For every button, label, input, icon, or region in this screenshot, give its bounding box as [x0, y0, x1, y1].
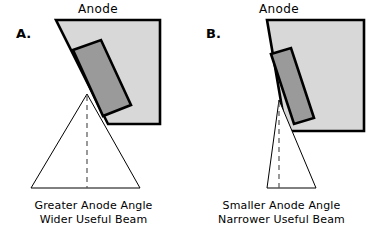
panel-b-diagram	[188, 0, 375, 196]
caption-line-2: Wider Useful Beam	[0, 213, 187, 227]
panel-b-caption: Smaller Anode Angle Narrower Useful Beam	[188, 199, 375, 227]
panel-b: Anode B. Smaller Anode Angle Narrower Us…	[188, 0, 375, 242]
anode-angle-figure: Anode A. Greater Anode Angle Wider Usefu…	[0, 0, 375, 242]
panel-a-diagram	[0, 0, 187, 196]
caption-line-1: Smaller Anode Angle	[188, 199, 375, 213]
caption-line-2: Narrower Useful Beam	[188, 213, 375, 227]
caption-line-1: Greater Anode Angle	[0, 199, 187, 213]
panel-a-caption: Greater Anode Angle Wider Useful Beam	[0, 199, 187, 227]
panel-a: Anode A. Greater Anode Angle Wider Usefu…	[0, 0, 187, 242]
